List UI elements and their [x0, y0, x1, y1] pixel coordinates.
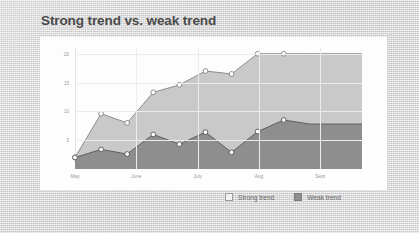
grid-line-vertical	[136, 48, 137, 169]
data-point-marker[interactable]	[99, 147, 104, 152]
legend-item-weak-trend[interactable]: Weak trend	[294, 193, 341, 201]
dark-square-marker-icon	[294, 193, 302, 201]
data-point-marker[interactable]	[203, 130, 208, 135]
x-axis-tick-label: Aug	[255, 174, 264, 179]
data-point-marker[interactable]	[203, 69, 208, 74]
chart-plot-area: 5101520MayJuneJulyAugSept	[75, 48, 362, 169]
slide-canvas: Strong trend vs. weak trend 5101520MayJu…	[0, 0, 419, 233]
data-point-marker[interactable]	[125, 121, 130, 126]
data-point-marker[interactable]	[177, 142, 182, 147]
y-axis-tick-label: 20	[64, 51, 69, 56]
x-axis-tick-label: Sept	[315, 174, 325, 179]
grid-line-vertical	[320, 48, 321, 169]
y-axis-tick-label: 10	[64, 109, 69, 114]
light-square-marker-icon	[225, 193, 233, 201]
legend-item-strong-trend[interactable]: Strong trend	[225, 193, 274, 201]
data-point-marker[interactable]	[151, 90, 156, 95]
data-point-marker[interactable]	[229, 72, 234, 77]
data-point-marker[interactable]	[281, 118, 286, 123]
y-axis-tick-label: 5	[66, 138, 69, 143]
legend-item-label: Strong trend	[238, 194, 274, 201]
grid-line-horizontal	[75, 54, 362, 55]
grid-line-horizontal	[75, 111, 362, 112]
grid-line-vertical	[198, 48, 199, 169]
chart-card: 5101520MayJuneJulyAugSept	[40, 37, 387, 190]
y-axis-tick-label: 15	[64, 80, 69, 85]
data-point-marker[interactable]	[229, 150, 234, 155]
legend-item-label: Weak trend	[307, 194, 341, 201]
grid-line-vertical	[259, 48, 260, 169]
data-point-marker[interactable]	[125, 152, 130, 157]
page-title: Strong trend vs. weak trend	[41, 13, 216, 28]
data-point-marker[interactable]	[73, 155, 78, 160]
grid-line-horizontal	[75, 140, 362, 141]
x-axis-tick-label: June	[131, 174, 141, 179]
chart-legend: Strong trend Weak trend	[225, 193, 341, 201]
x-axis-tick-label: May	[70, 174, 79, 179]
grid-line-horizontal	[75, 83, 362, 84]
x-axis-tick-label: July	[193, 174, 202, 179]
area-chart-svg	[75, 48, 362, 169]
data-point-marker[interactable]	[151, 132, 156, 137]
